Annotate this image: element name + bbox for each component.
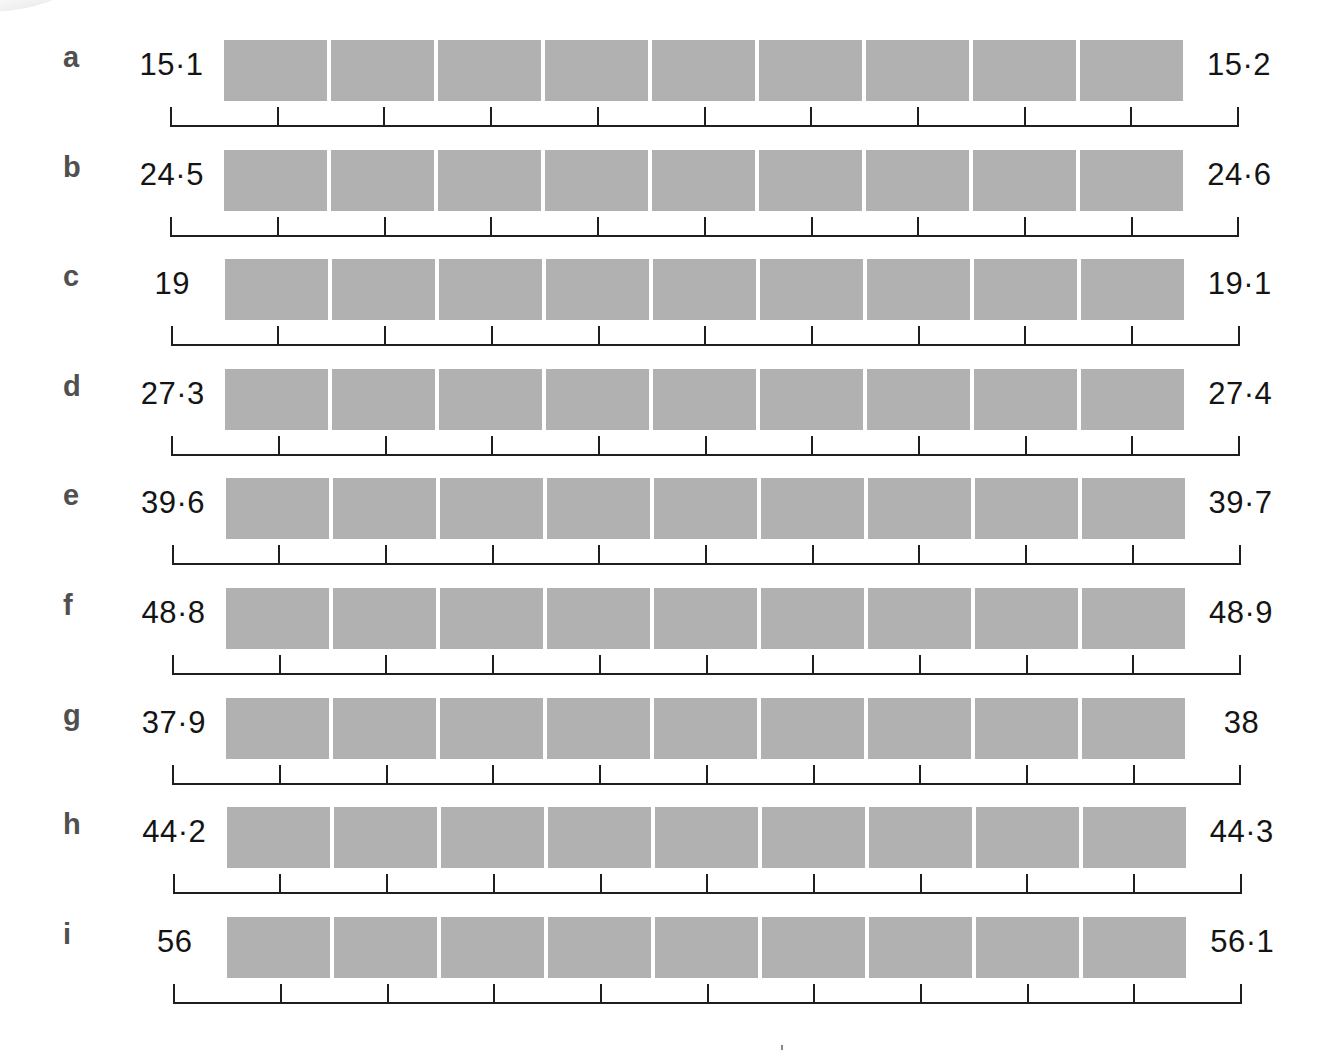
start-value: 19 <box>135 266 210 302</box>
scale-tick <box>600 984 602 1002</box>
scale-tick <box>385 436 387 454</box>
scale-line <box>172 763 1241 785</box>
scale-tick <box>279 874 281 892</box>
segment-box <box>331 150 434 211</box>
scale-tick <box>491 326 493 344</box>
segment-box <box>1083 807 1186 868</box>
segment-box <box>975 588 1078 649</box>
segment-box <box>655 807 758 868</box>
scale-tick <box>1238 326 1240 344</box>
scale-tick <box>810 107 812 125</box>
scale-tick <box>1238 436 1240 454</box>
segment-boxes <box>227 807 1186 868</box>
scale-tick <box>704 217 706 235</box>
scale-tick <box>170 107 172 125</box>
scale-tick <box>920 984 922 1002</box>
scale-tick <box>173 984 175 1002</box>
segment-box <box>1082 478 1185 539</box>
segment-box <box>867 259 970 320</box>
scale-tick <box>600 874 602 892</box>
scale-tick <box>1024 326 1026 344</box>
scale-line <box>173 982 1242 1004</box>
scale-tick <box>386 874 388 892</box>
scale-tick <box>1239 545 1241 563</box>
segment-box <box>545 150 648 211</box>
start-value: 39·6 <box>136 485 211 521</box>
segment-box <box>440 698 543 759</box>
row-letter: h <box>63 807 93 841</box>
scale-line <box>171 434 1240 456</box>
scale-tick <box>813 765 815 783</box>
scale-tick <box>171 436 173 454</box>
scale-tick <box>705 436 707 454</box>
segment-box <box>974 369 1077 430</box>
scale-tick <box>386 765 388 783</box>
segment-box <box>653 369 756 430</box>
end-value: 27·4 <box>1200 376 1280 412</box>
scale-tick <box>812 655 814 673</box>
segment-box <box>334 807 437 868</box>
scale-tick <box>492 655 494 673</box>
segment-box <box>227 807 330 868</box>
scale-tick <box>811 436 813 454</box>
scale-line <box>172 543 1241 565</box>
scale-tick <box>1240 984 1242 1002</box>
scale-tick <box>278 545 280 563</box>
scale-tick <box>384 326 386 344</box>
scale-tick <box>706 655 708 673</box>
end-value: 15·2 <box>1199 47 1279 83</box>
start-value: 27·3 <box>135 376 210 412</box>
segment-box <box>224 40 327 101</box>
segment-box <box>439 259 542 320</box>
segment-box <box>976 917 1079 978</box>
scale-tick <box>1132 545 1134 563</box>
segment-box <box>331 40 434 101</box>
segment-box <box>760 369 863 430</box>
corner-smudge <box>0 0 71 17</box>
segment-boxes <box>226 698 1185 759</box>
ruler-row-i: i5656·1 <box>0 909 1332 1005</box>
segment-box <box>654 478 757 539</box>
scale-tick <box>917 217 919 235</box>
scale-tick <box>918 545 920 563</box>
segment-box <box>440 478 543 539</box>
segment-box <box>225 369 328 430</box>
scale-line <box>171 324 1240 346</box>
scale-line <box>172 653 1241 675</box>
scale-tick <box>704 326 706 344</box>
scale-tick <box>597 107 599 125</box>
scale-tick <box>917 107 919 125</box>
segment-box <box>332 259 435 320</box>
scale-tick <box>171 326 173 344</box>
segment-box <box>762 917 865 978</box>
scale-tick <box>277 326 279 344</box>
segment-box <box>973 40 1076 101</box>
segment-box <box>438 150 541 211</box>
scale-tick <box>919 655 921 673</box>
start-value: 37·9 <box>136 705 211 741</box>
segment-boxes <box>227 917 1186 978</box>
segment-box <box>869 917 972 978</box>
scale-tick <box>492 765 494 783</box>
segment-box <box>975 698 1078 759</box>
end-value: 48·9 <box>1201 595 1281 631</box>
segment-box <box>1080 150 1183 211</box>
segment-box <box>655 917 758 978</box>
start-value: 56 <box>137 924 212 960</box>
segment-box <box>334 917 437 978</box>
segment-boxes <box>224 40 1183 101</box>
scale-tick <box>279 765 281 783</box>
segment-box <box>760 259 863 320</box>
scale-tick <box>1026 874 1028 892</box>
segment-box <box>440 588 543 649</box>
scale-tick <box>598 326 600 344</box>
scale-tick <box>277 217 279 235</box>
scale-tick <box>1237 107 1239 125</box>
end-value: 19·1 <box>1200 266 1280 302</box>
scale-tick <box>705 545 707 563</box>
scale-tick <box>277 107 279 125</box>
scale-tick <box>172 545 174 563</box>
segment-boxes <box>226 478 1185 539</box>
start-value: 15·1 <box>134 47 209 83</box>
segment-box <box>1080 40 1183 101</box>
